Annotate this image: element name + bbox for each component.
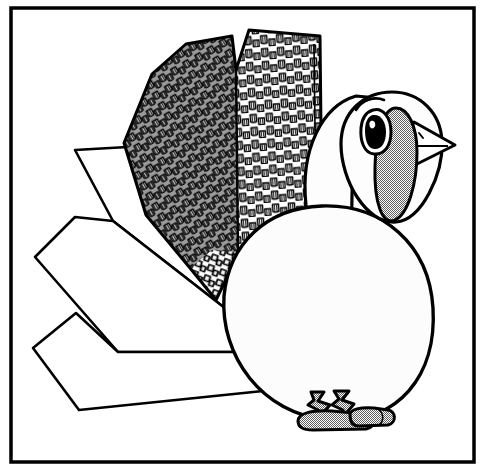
eye [361,110,391,155]
feet [298,408,394,430]
eye-pupil [365,115,386,149]
illustration-canvas [0,0,485,469]
turkey-illustration-svg [0,0,485,469]
foot-right [350,408,394,426]
